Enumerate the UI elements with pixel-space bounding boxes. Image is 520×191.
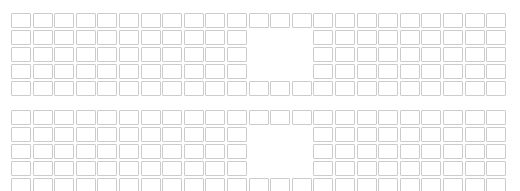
grid-cell[interactable]	[205, 144, 225, 159]
grid-cell[interactable]	[184, 127, 204, 142]
grid-cell[interactable]	[378, 127, 398, 142]
grid-cell[interactable]	[76, 30, 96, 45]
grid-cell[interactable]	[313, 47, 333, 62]
grid-cell[interactable]	[76, 47, 96, 62]
grid-cell[interactable]	[292, 178, 312, 191]
grid-cell[interactable]	[335, 13, 355, 28]
grid-cell[interactable]	[54, 144, 74, 159]
grid-cell[interactable]	[313, 30, 333, 45]
grid-cell[interactable]	[227, 81, 247, 96]
grid-cell[interactable]	[11, 110, 31, 125]
grid-cell[interactable]	[227, 127, 247, 142]
grid-cell[interactable]	[184, 144, 204, 159]
grid-cell[interactable]	[357, 81, 377, 96]
grid-cell[interactable]	[33, 13, 53, 28]
grid-cell[interactable]	[249, 178, 269, 191]
grid-cell[interactable]	[33, 161, 53, 176]
grid-cell[interactable]	[11, 13, 31, 28]
grid-cell[interactable]	[33, 144, 53, 159]
grid-cell[interactable]	[227, 64, 247, 79]
grid-cell[interactable]	[335, 30, 355, 45]
grid-cell[interactable]	[141, 144, 161, 159]
grid-cell[interactable]	[54, 161, 74, 176]
grid-cell[interactable]	[162, 161, 182, 176]
grid-cell[interactable]	[54, 13, 74, 28]
grid-cell[interactable]	[400, 161, 420, 176]
grid-cell[interactable]	[270, 110, 290, 125]
grid-cell[interactable]	[76, 178, 96, 191]
grid-cell[interactable]	[119, 178, 139, 191]
grid-cell[interactable]	[97, 161, 117, 176]
grid-cell[interactable]	[335, 127, 355, 142]
grid-cell[interactable]	[11, 144, 31, 159]
grid-cell[interactable]	[11, 127, 31, 142]
grid-cell[interactable]	[184, 13, 204, 28]
grid-cell[interactable]	[357, 110, 377, 125]
grid-cell[interactable]	[486, 127, 506, 142]
grid-cell[interactable]	[357, 161, 377, 176]
grid-cell[interactable]	[421, 47, 441, 62]
grid-cell[interactable]	[313, 144, 333, 159]
grid-cell[interactable]	[33, 178, 53, 191]
grid-cell[interactable]	[227, 30, 247, 45]
grid-cell[interactable]	[378, 81, 398, 96]
grid-cell[interactable]	[119, 47, 139, 62]
grid-cell[interactable]	[486, 47, 506, 62]
grid-cell[interactable]	[76, 13, 96, 28]
grid-cell[interactable]	[335, 144, 355, 159]
grid-cell[interactable]	[54, 64, 74, 79]
grid-cell[interactable]	[421, 127, 441, 142]
grid-cell[interactable]	[465, 178, 485, 191]
grid-cell[interactable]	[119, 13, 139, 28]
grid-cell[interactable]	[465, 64, 485, 79]
grid-cell[interactable]	[313, 64, 333, 79]
grid-cell[interactable]	[486, 144, 506, 159]
grid-cell[interactable]	[357, 64, 377, 79]
grid-cell[interactable]	[443, 13, 463, 28]
grid-cell[interactable]	[270, 178, 290, 191]
grid-cell[interactable]	[313, 161, 333, 176]
grid-cell[interactable]	[421, 161, 441, 176]
grid-cell[interactable]	[249, 13, 269, 28]
grid-cell[interactable]	[76, 81, 96, 96]
grid-cell[interactable]	[97, 144, 117, 159]
grid-cell[interactable]	[119, 161, 139, 176]
grid-cell[interactable]	[443, 47, 463, 62]
grid-cell[interactable]	[400, 81, 420, 96]
grid-cell[interactable]	[465, 47, 485, 62]
grid-cell[interactable]	[400, 144, 420, 159]
grid-cell[interactable]	[486, 30, 506, 45]
grid-cell[interactable]	[205, 161, 225, 176]
grid-cell[interactable]	[443, 127, 463, 142]
grid-cell[interactable]	[141, 178, 161, 191]
grid-cell[interactable]	[11, 47, 31, 62]
grid-cell[interactable]	[184, 110, 204, 125]
grid-cell[interactable]	[335, 161, 355, 176]
grid-cell[interactable]	[357, 127, 377, 142]
grid-cell[interactable]	[184, 161, 204, 176]
grid-cell[interactable]	[184, 64, 204, 79]
grid-cell[interactable]	[205, 110, 225, 125]
grid-cell[interactable]	[378, 13, 398, 28]
grid-cell[interactable]	[141, 161, 161, 176]
grid-cell[interactable]	[76, 127, 96, 142]
grid-cell[interactable]	[465, 30, 485, 45]
grid-cell[interactable]	[76, 144, 96, 159]
grid-cell[interactable]	[335, 64, 355, 79]
grid-cell[interactable]	[465, 81, 485, 96]
grid-cell[interactable]	[11, 161, 31, 176]
grid-cell[interactable]	[227, 161, 247, 176]
grid-cell[interactable]	[205, 64, 225, 79]
grid-cell[interactable]	[335, 110, 355, 125]
grid-cell[interactable]	[97, 127, 117, 142]
grid-cell[interactable]	[54, 127, 74, 142]
grid-cell[interactable]	[97, 178, 117, 191]
grid-cell[interactable]	[162, 127, 182, 142]
grid-cell[interactable]	[205, 81, 225, 96]
grid-cell[interactable]	[313, 127, 333, 142]
grid-cell[interactable]	[357, 144, 377, 159]
grid-cell[interactable]	[33, 64, 53, 79]
grid-cell[interactable]	[443, 64, 463, 79]
grid-cell[interactable]	[76, 110, 96, 125]
grid-cell[interactable]	[421, 178, 441, 191]
